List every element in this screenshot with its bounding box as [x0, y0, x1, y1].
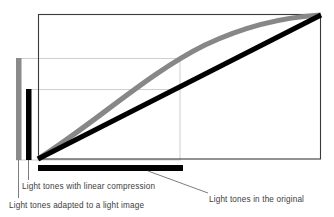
output-bar-adapted	[16, 58, 22, 160]
caption-adapted-light-image: Light tones adapted to a light image	[9, 201, 144, 211]
leader-line-original	[148, 171, 208, 193]
input-bar-original	[38, 165, 183, 171]
caption-original: Light tones in the original	[209, 195, 304, 205]
output-bar-linear	[26, 89, 32, 160]
caption-linear-compression: Light tones with linear compression	[22, 182, 155, 192]
figure-canvas: Light tones with linear compression Ligh…	[0, 0, 334, 217]
